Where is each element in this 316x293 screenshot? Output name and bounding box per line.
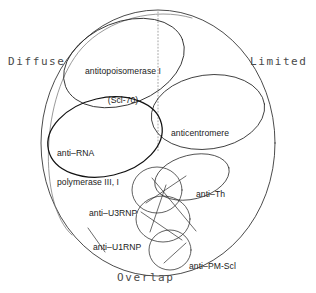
label-antitopoisomerase-line1: antitopoisomerase I bbox=[85, 67, 161, 77]
label-anti-u1rnp-line1: anti–U1RNP bbox=[93, 243, 141, 253]
label-anti-pm-scl-line1: anti–PM-Scl bbox=[189, 262, 236, 272]
label-anti-u1rnp: anti–U1RNP bbox=[93, 224, 141, 272]
label-limited: Limited bbox=[250, 56, 308, 68]
anti-u1rnp-circle bbox=[136, 196, 190, 242]
diagram-canvas: Diffuse Limited Overlap antitopoisomeras… bbox=[0, 0, 316, 293]
venn-diagram-graphic bbox=[0, 0, 316, 293]
leader-line-anti-pm-scl bbox=[164, 243, 186, 263]
label-anti-th: anti–Th bbox=[196, 171, 225, 219]
leader-line-anti-th bbox=[152, 178, 196, 231]
label-anti-pm-scl: anti–PM-Scl bbox=[189, 243, 236, 291]
label-anti-u3rnp-line1: anti–U3RNP bbox=[89, 209, 137, 219]
label-anti-rna-polymerase-line1: anti–RNA bbox=[57, 149, 119, 159]
label-anti-th-line1: anti–Th bbox=[196, 190, 225, 200]
label-antitopoisomerase: antitopoisomerase I (Scl-70) bbox=[85, 48, 161, 125]
label-anti-rna-polymerase-line2: polymerase III, I bbox=[57, 178, 119, 188]
anti-pm-scl-circle bbox=[149, 230, 191, 270]
label-anticentromere: anticentromere bbox=[171, 110, 229, 158]
label-diffuse: Diffuse bbox=[8, 56, 66, 68]
label-antitopoisomerase-line2: (Scl-70) bbox=[85, 96, 161, 106]
label-overlap: Overlap bbox=[117, 272, 175, 284]
leader-line-anti-u1rnp bbox=[141, 212, 182, 240]
label-anticentromere-line1: anticentromere bbox=[171, 129, 229, 139]
